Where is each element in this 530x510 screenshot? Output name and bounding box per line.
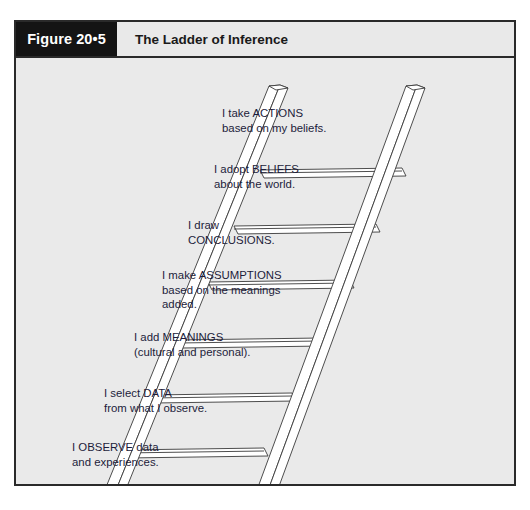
step-4-line-1: I make ASSUMPTIONS [162,268,282,283]
step-4-line-3: added. [162,297,282,312]
step-2-line-2: from what I observe. [104,401,207,416]
ladder-step-label-1: I OBSERVE data and experiences. [72,440,159,469]
step-5-line-1: I draw [188,218,275,233]
step-7-line-2: based on my beliefs. [222,121,326,136]
ladder-step-label-5: I draw CONCLUSIONS. [188,218,275,247]
step-4-line-2: based on the meanings [162,283,282,298]
step-1-line-2: and experiences. [72,455,159,470]
step-6-line-1: I adopt BELIEFS [214,162,299,177]
ladder-step-label-6: I adopt BELIEFS about the world. [214,162,299,191]
ladder-step-label-4: I make ASSUMPTIONS based on the meanings… [162,268,282,312]
figure-title: The Ladder of Inference [117,22,514,56]
figure-frame: Figure 20•5 The Ladder of Inference [14,20,516,486]
ladder-step-label-7: I take ACTIONS based on my beliefs. [222,106,326,135]
step-1-line-1: I OBSERVE data [72,440,159,455]
step-3-line-1: I add MEANINGS [134,330,251,345]
step-2-line-1: I select DATA [104,386,207,401]
figure-header: Figure 20•5 The Ladder of Inference [16,22,514,58]
step-6-line-2: about the world. [214,177,299,192]
step-5-line-2: CONCLUSIONS. [188,233,275,248]
ladder-step-label-2: I select DATA from what I observe. [104,386,207,415]
step-3-line-2: (cultural and personal). [134,345,251,360]
step-7-line-1: I take ACTIONS [222,106,326,121]
figure-body: I take ACTIONS based on my beliefs. I ad… [16,58,514,484]
figure-number-badge: Figure 20•5 [16,22,117,56]
ladder-step-label-3: I add MEANINGS (cultural and personal). [134,330,251,359]
